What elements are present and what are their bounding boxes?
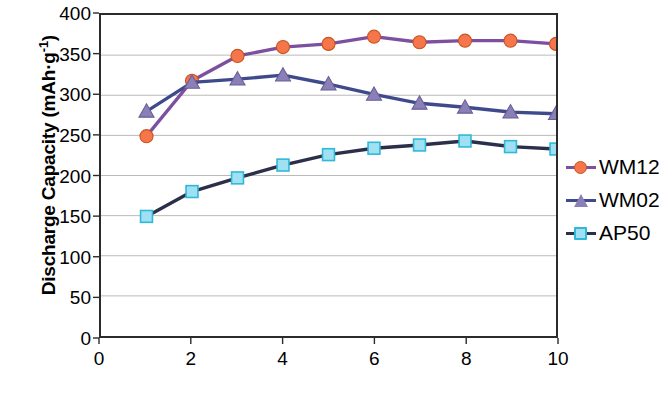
legend-item-WM02[interactable]: WM02 bbox=[566, 183, 669, 216]
legend-item-AP50[interactable]: AP50 bbox=[566, 216, 669, 249]
legend-label-WM12: WM12 bbox=[596, 156, 660, 177]
legend-label-WM02: WM02 bbox=[596, 189, 660, 210]
legend-item-WM12[interactable]: WM12 bbox=[566, 150, 669, 183]
legend-marker-triangle-icon bbox=[574, 194, 588, 207]
legend-key-AP50 bbox=[566, 224, 596, 242]
chart-figure: Discharge Capacity (mAh·g-1) 05010015020… bbox=[0, 0, 669, 407]
chart-legend: WM12WM02AP50 bbox=[566, 150, 669, 249]
legend-key-WM02 bbox=[566, 191, 596, 209]
legend-marker-circle-icon bbox=[574, 161, 587, 174]
legend-label-AP50: AP50 bbox=[596, 222, 650, 243]
legend-marker-square-icon bbox=[574, 227, 587, 240]
legend-key-WM12 bbox=[566, 158, 596, 176]
